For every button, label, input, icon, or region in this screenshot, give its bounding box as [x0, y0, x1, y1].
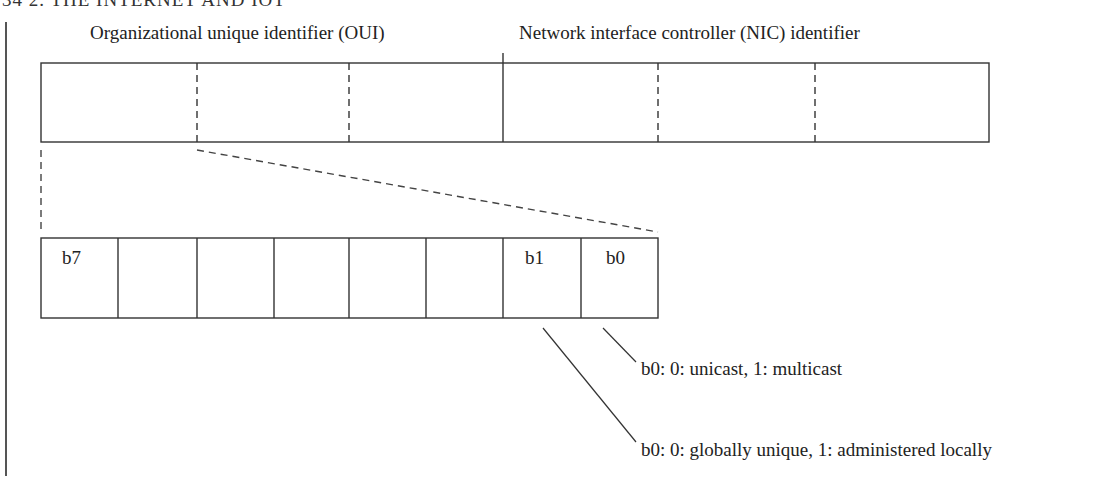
leader-b0 — [603, 328, 636, 362]
oui-label: Organizational unique identifier (OUI) — [90, 22, 385, 44]
bit-label-b1: b1 — [525, 247, 544, 269]
leader-b1 — [543, 328, 636, 442]
annotation-local-admin: b0: 0: globally unique, 1: administered … — [641, 439, 992, 461]
leader-lines — [543, 328, 636, 442]
nic-label: Network interface controller (NIC) ident… — [519, 22, 860, 44]
first-octet-bits-box — [41, 238, 658, 318]
mac-address-diagram — [0, 0, 1105, 482]
annotation-multicast: b0: 0: unicast, 1: multicast — [641, 358, 842, 380]
bit-label-b0: b0 — [606, 247, 625, 269]
zoom-projection-lines — [41, 150, 658, 232]
mac-address-box — [41, 53, 989, 142]
bit-label-b7: b7 — [62, 247, 81, 269]
